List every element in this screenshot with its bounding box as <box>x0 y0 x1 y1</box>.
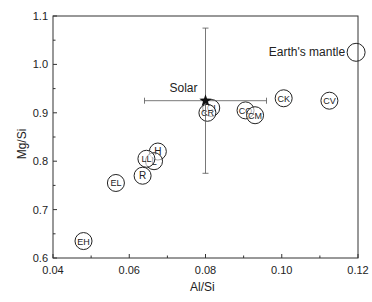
solar-label: Solar <box>169 81 197 95</box>
plot-area: 0.040.060.080.100.120.60.70.80.91.01.1CI… <box>0 0 372 302</box>
x-tick-label: 0.08 <box>195 264 216 276</box>
data-point-label: CK <box>277 94 290 104</box>
scatter-chart: 0.040.060.080.100.120.60.70.80.91.01.1CI… <box>0 0 372 302</box>
x-tick-label: 0.04 <box>42 264 63 276</box>
earth-mantle-marker <box>347 43 365 61</box>
data-point-label: R <box>139 170 146 181</box>
y-tick-label: 0.9 <box>33 107 48 119</box>
data-point-label: EL <box>110 178 121 188</box>
data-point-label: CM <box>248 111 262 121</box>
x-tick-label: 0.10 <box>271 264 292 276</box>
data-point-label: EH <box>77 237 90 247</box>
x-tick-label: 0.06 <box>119 264 140 276</box>
data-point-label: CR <box>201 108 214 118</box>
y-tick-label: 1.1 <box>33 10 48 22</box>
data-point-label: LL <box>141 154 151 164</box>
y-tick-label: 0.6 <box>33 252 48 264</box>
x-tick-label: 0.12 <box>347 264 368 276</box>
earth-mantle-label: Earth's mantle <box>269 45 346 59</box>
y-tick-label: 1.0 <box>33 58 48 70</box>
y-axis-label: Mg/Si <box>15 124 29 164</box>
x-axis-label: Al/Si <box>190 280 215 294</box>
y-tick-label: 0.8 <box>33 155 48 167</box>
data-point-label: CV <box>323 96 336 106</box>
y-tick-label: 0.7 <box>33 204 48 216</box>
